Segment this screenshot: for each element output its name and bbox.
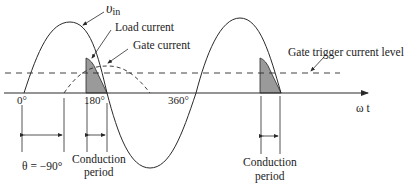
load-current-shade-1 xyxy=(86,58,107,93)
conduction2-line1: Conduction xyxy=(243,156,297,168)
gate-current-label: Gate current xyxy=(133,39,191,51)
vin-pointer xyxy=(83,12,104,25)
theta-label: θ = −90° xyxy=(22,160,63,172)
gate-trigger-pointer xyxy=(311,57,324,71)
gate-current-curve xyxy=(64,66,150,93)
gate-current-pointer xyxy=(108,49,128,63)
deg0-label: 0° xyxy=(17,94,27,106)
conduction1-line1: Conduction xyxy=(72,153,126,165)
conduction2-line2: period xyxy=(255,170,285,183)
load-current-pointer xyxy=(92,30,111,58)
deg180-label: 180° xyxy=(84,94,105,106)
scr-waveform-diagram: υin Load current Gate current Gate trigg… xyxy=(0,0,412,187)
axis-label: ω t xyxy=(356,102,370,114)
gate-trigger-label: Gate trigger current level xyxy=(288,46,404,59)
deg360-label: 360° xyxy=(168,94,189,106)
load-current-shade-2 xyxy=(260,58,281,93)
vin-label: υin xyxy=(106,1,120,17)
conduction1-line2: period xyxy=(84,166,114,179)
load-current-label: Load current xyxy=(115,21,175,33)
